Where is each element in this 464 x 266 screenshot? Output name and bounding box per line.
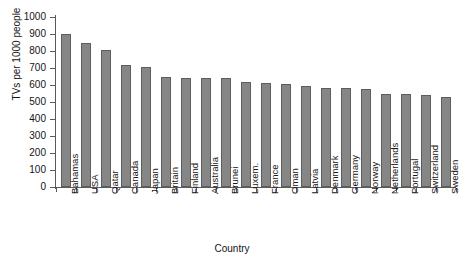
bar[interactable]	[81, 43, 91, 188]
y-tick-label: 300	[0, 129, 46, 142]
x-tick-label: Oman	[290, 168, 300, 194]
x-tick-label: Denmark	[330, 155, 340, 194]
x-tick-label: Switzerland	[430, 145, 440, 194]
y-tick-label: 0	[0, 180, 46, 193]
x-tick-label: Netherlands	[390, 143, 400, 194]
bar-slot	[96, 17, 116, 187]
bar-slot	[236, 17, 256, 187]
x-tick-label: Japan	[150, 168, 160, 194]
y-tick-label: 200	[0, 146, 46, 159]
y-tick-mark	[50, 102, 55, 103]
bar-slot	[276, 17, 296, 187]
x-tick-label: Sweden	[450, 160, 460, 194]
x-tick-label: Australia	[210, 157, 220, 194]
bar-slot	[156, 17, 176, 187]
y-tick-mark	[50, 34, 55, 35]
x-tick-label: Germany	[350, 155, 360, 194]
bar-slot	[256, 17, 276, 187]
bar-slot	[296, 17, 316, 187]
x-tick-label: USA	[90, 174, 100, 194]
y-tick-mark	[50, 136, 55, 137]
y-tick-mark	[50, 17, 55, 18]
y-tick-label: 500	[0, 95, 46, 108]
x-tick-label: Portugal	[410, 159, 420, 194]
y-tick-mark	[50, 153, 55, 154]
bar-slot	[176, 17, 196, 187]
x-tick-label: France	[270, 164, 280, 194]
x-tick-label: Luxem.	[250, 163, 260, 194]
y-tick-label: 600	[0, 78, 46, 91]
y-tick-label: 400	[0, 112, 46, 125]
x-tick-label: Finland	[190, 163, 200, 194]
x-tick-label: Brunei	[230, 167, 240, 194]
y-tick-mark	[50, 170, 55, 171]
x-tick-label: Qatar	[110, 170, 120, 194]
bar[interactable]	[101, 50, 111, 187]
x-axis-title: Country	[0, 243, 464, 254]
x-tick-label: Britain	[170, 167, 180, 194]
y-tick-mark	[50, 119, 55, 120]
y-tick-label: 800	[0, 44, 46, 57]
x-tick-label: Canada	[130, 161, 140, 194]
bar-chart: TVs per 1000 people 10009008007006005004…	[0, 0, 464, 266]
y-tick-mark	[50, 68, 55, 69]
x-tick-label: Latvia	[310, 169, 320, 194]
y-tick-label: 1000	[0, 10, 46, 23]
y-tick-label: 900	[0, 27, 46, 40]
y-tick-mark	[50, 85, 55, 86]
y-tick-label: 700	[0, 61, 46, 74]
y-tick-mark	[50, 187, 55, 188]
y-tick-label: 100	[0, 163, 46, 176]
y-tick-mark	[50, 51, 55, 52]
x-tick-label: Norway	[370, 162, 380, 194]
x-tick-label: Bahamas	[70, 154, 80, 194]
x-tick-mark	[56, 188, 57, 192]
